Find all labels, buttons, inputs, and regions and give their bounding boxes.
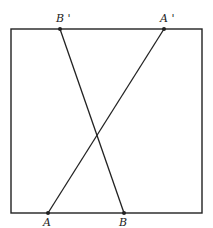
label-a: A (42, 216, 51, 228)
label-b-prime: B ' (55, 12, 71, 25)
point-b-prime-dot (58, 27, 62, 31)
label-a-prime: A ' (159, 12, 174, 25)
segment-a-a-prime (48, 29, 164, 213)
diagram-canvas: A B A ' B ' (0, 0, 213, 228)
point-a-dot (46, 211, 50, 215)
segment-b-b-prime (60, 29, 124, 213)
point-a-prime-dot (162, 27, 166, 31)
point-b-dot (122, 211, 126, 215)
label-b: B (118, 216, 127, 228)
